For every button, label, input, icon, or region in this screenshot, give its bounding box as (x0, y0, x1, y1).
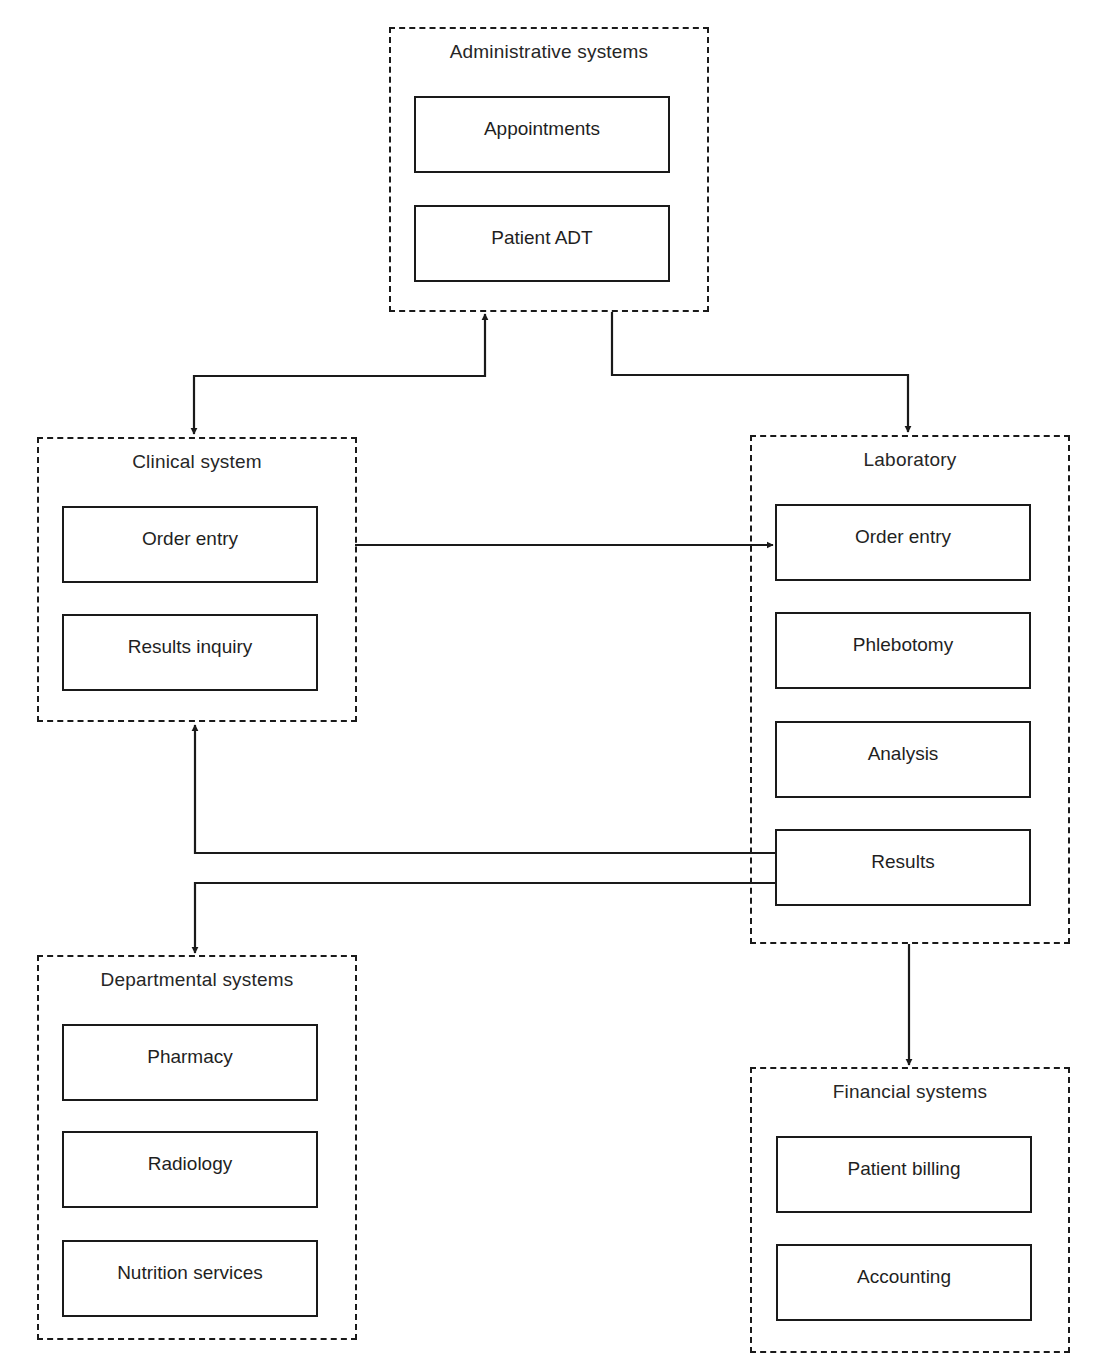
edge-admin-clinical (194, 314, 485, 434)
node-nutrition-services: Nutrition services (62, 1240, 318, 1317)
node-lab-order-entry: Order entry (775, 504, 1031, 581)
edge-results-clinical (195, 725, 775, 853)
group-title-administrative: Administrative systems (391, 41, 707, 63)
node-results-inquiry: Results inquiry (62, 614, 318, 691)
node-label: Accounting (778, 1246, 1030, 1288)
node-label: Appointments (416, 98, 668, 140)
node-label: Analysis (777, 723, 1029, 765)
node-label: Order entry (777, 506, 1029, 548)
node-label: Radiology (64, 1133, 316, 1175)
group-title-departmental: Departmental systems (39, 969, 355, 991)
edge-results-departmental (195, 883, 775, 953)
node-label: Order entry (64, 508, 316, 550)
node-label: Nutrition services (64, 1242, 316, 1284)
group-title-financial: Financial systems (752, 1081, 1068, 1103)
node-results: Results (775, 829, 1031, 906)
node-patient-adt: Patient ADT (414, 205, 670, 282)
node-accounting: Accounting (776, 1244, 1032, 1321)
node-patient-billing: Patient billing (776, 1136, 1032, 1213)
node-pharmacy: Pharmacy (62, 1024, 318, 1101)
node-label: Pharmacy (64, 1026, 316, 1068)
node-label: Patient billing (778, 1138, 1030, 1180)
node-label: Patient ADT (416, 207, 668, 249)
node-phlebotomy: Phlebotomy (775, 612, 1031, 689)
group-title-laboratory: Laboratory (752, 449, 1068, 471)
edge-admin-laboratory (612, 312, 908, 432)
node-clinical-order-entry: Order entry (62, 506, 318, 583)
group-title-clinical: Clinical system (39, 451, 355, 473)
node-radiology: Radiology (62, 1131, 318, 1208)
node-appointments: Appointments (414, 96, 670, 173)
node-analysis: Analysis (775, 721, 1031, 798)
node-label: Results inquiry (64, 616, 316, 658)
node-label: Results (777, 831, 1029, 873)
node-label: Phlebotomy (777, 614, 1029, 656)
